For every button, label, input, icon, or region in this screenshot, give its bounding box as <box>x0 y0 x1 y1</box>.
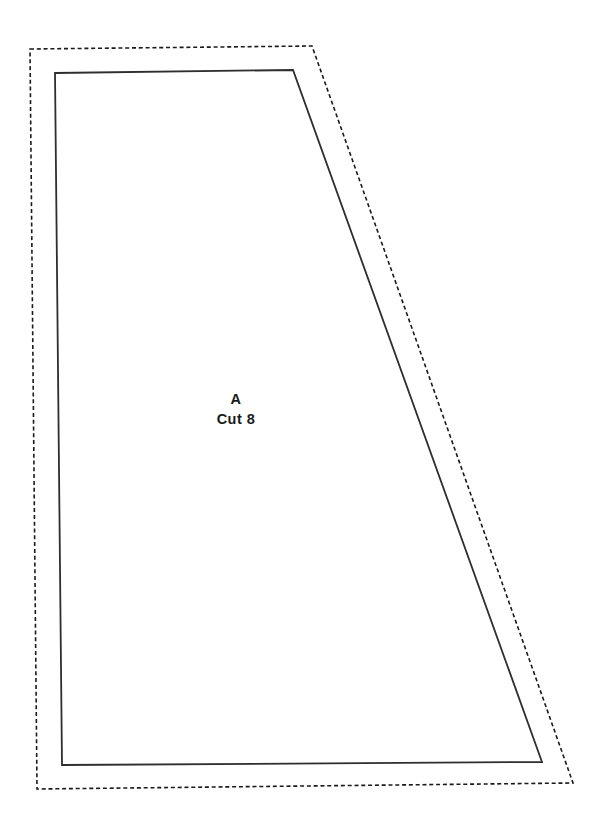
pattern-label-block: A Cut 8 <box>217 389 256 429</box>
cutting-line-outline <box>30 46 573 789</box>
piece-letter-label: A <box>217 389 256 409</box>
cut-instruction-label: Cut 8 <box>217 409 256 429</box>
pattern-piece-drawing <box>0 0 607 827</box>
stitching-line-outline <box>55 70 542 765</box>
pattern-page: A Cut 8 <box>0 0 607 827</box>
